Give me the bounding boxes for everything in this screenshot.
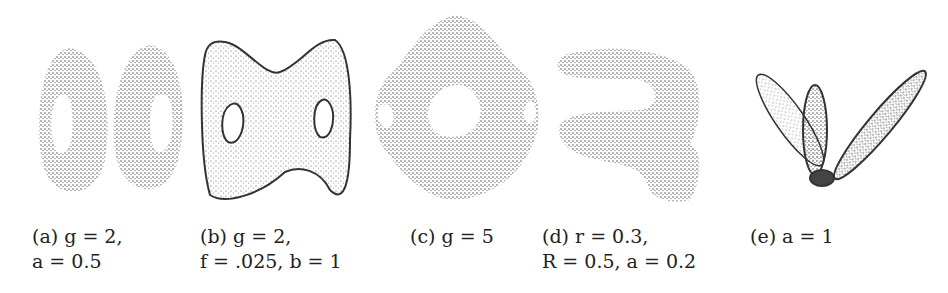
subfigure-c-plot — [375, 15, 539, 200]
caption-e: (e) a = 1 — [750, 224, 834, 249]
caption-e-line1: (e) a = 1 — [750, 224, 834, 249]
caption-a-line1: (a) g = 2, — [32, 224, 122, 249]
subfigure-e-plot — [747, 64, 934, 187]
subfigure-b-plot — [202, 40, 351, 199]
subfigure-d-plot — [558, 49, 700, 202]
figure-panels — [0, 0, 948, 215]
caption-b-line1: (b) g = 2, — [200, 224, 342, 249]
subfigure-a-plot — [39, 45, 183, 192]
caption-a-line2: a = 0.5 — [32, 249, 122, 274]
caption-b-line2: f = .025, b = 1 — [200, 249, 342, 274]
caption-c: (c) g = 5 — [410, 224, 494, 249]
caption-a: (a) g = 2, a = 0.5 — [32, 224, 122, 274]
caption-c-line1: (c) g = 5 — [410, 224, 494, 249]
caption-d-line2: R = 0.5, a = 0.2 — [542, 249, 696, 274]
caption-b: (b) g = 2, f = .025, b = 1 — [200, 224, 342, 274]
caption-d: (d) r = 0.3, R = 0.5, a = 0.2 — [542, 224, 696, 274]
caption-d-line1: (d) r = 0.3, — [542, 224, 696, 249]
